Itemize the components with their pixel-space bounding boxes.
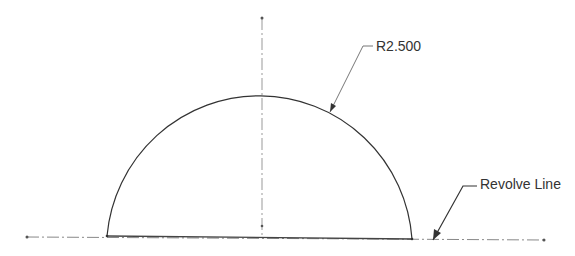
axis-endpoint-left <box>26 236 29 239</box>
profile-arc[interactable] <box>107 96 412 239</box>
arc-endpoint-left <box>106 235 109 238</box>
axis-endpoint-right <box>543 239 546 242</box>
arc-center-point <box>261 225 264 228</box>
arc-endpoint-right <box>411 238 414 241</box>
radius-leader-line <box>330 46 373 112</box>
revolve-line-label: Revolve Line <box>480 176 561 192</box>
revolve-leader-line <box>433 186 477 240</box>
radius-dimension-label[interactable]: R2.500 <box>376 38 421 54</box>
centerline-endpoint-top <box>261 17 264 20</box>
radius-leader-arrowhead <box>330 103 336 112</box>
revolve-leader-arrowhead <box>433 229 441 240</box>
drawing-canvas <box>0 0 575 256</box>
